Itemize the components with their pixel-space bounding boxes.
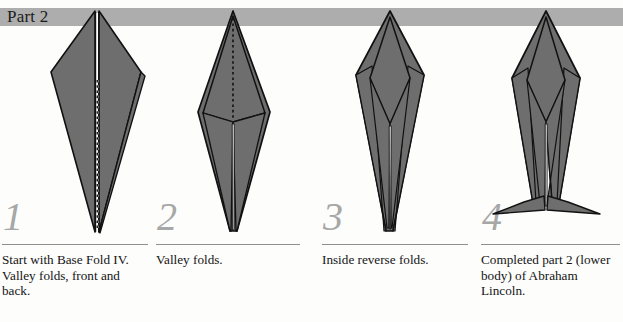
step-caption-1: Start with Base Fold IV. Valley folds, f… (2, 252, 148, 299)
figure-step-2 (198, 11, 270, 231)
figure-4-center-slit (545, 124, 547, 206)
figure-step-1 (51, 11, 145, 233)
figure-2-center-slit (232, 124, 234, 230)
step-caption-3: Inside reverse folds. (322, 252, 468, 268)
origami-instruction-page: Part 2 (0, 0, 623, 322)
figure-1-left-flap (51, 11, 95, 232)
figure-2-tail-left-fold (203, 113, 233, 231)
figure-canvas (0, 0, 623, 250)
figure-1-center-gap (96, 13, 98, 95)
section-title: Part 2 (7, 6, 48, 27)
figure-step-3 (356, 11, 424, 231)
figure-1-right-flap (99, 11, 141, 232)
figure-4-left-foot (493, 196, 545, 214)
figure-4-right-foot (547, 196, 600, 214)
step-caption-4: Completed part 2 (lower body) of Abraham… (481, 252, 620, 299)
figure-3-center-slit (389, 126, 391, 229)
step-caption-2: Valley folds. (156, 252, 300, 268)
figure-step-4 (493, 11, 600, 214)
figure-2-tail-right-fold (233, 113, 265, 231)
